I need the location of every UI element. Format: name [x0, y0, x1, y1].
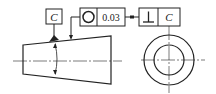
- leader-arrow-icon: [69, 35, 73, 40]
- datum-label: C: [50, 11, 58, 23]
- technical-drawing: C 0.03 C: [0, 0, 216, 94]
- end-view-concentric-circles: [141, 26, 205, 93]
- tolerance-value: 0.03: [102, 12, 120, 23]
- perpendicularity-icon: [143, 12, 154, 23]
- connector-mark: [130, 16, 134, 19]
- datum-box: C: [46, 9, 62, 42]
- side-view-taper: [13, 36, 122, 84]
- tolerance-frame-perpendicularity: C: [139, 8, 180, 26]
- datum-reference: C: [165, 11, 173, 23]
- circularity-icon: [83, 12, 94, 23]
- tolerance-frame-circularity: 0.03: [69, 8, 125, 40]
